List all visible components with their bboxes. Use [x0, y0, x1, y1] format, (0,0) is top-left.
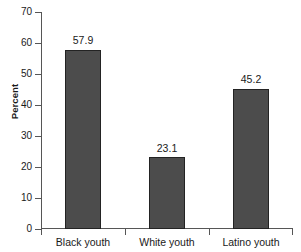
- bar-latino-youth: [233, 89, 269, 229]
- x-tick-label-black-youth: Black youth: [43, 236, 123, 248]
- y-tick-10: [35, 198, 41, 199]
- bar-chart: Percent 70 60 50 40 30 20 10 0 57.9 23.1…: [0, 0, 301, 252]
- y-tick-label-10: 10: [0, 193, 32, 203]
- x-tick-boundary-1: [125, 229, 126, 235]
- y-tick-label-0: 0: [0, 224, 32, 234]
- bar-value-black-youth: 57.9: [63, 35, 103, 46]
- y-tick-label-30: 30: [0, 131, 32, 141]
- bar-value-latino-youth: 45.2: [231, 74, 271, 85]
- bar-value-white-youth: 23.1: [147, 143, 187, 154]
- y-tick-label-60: 60: [0, 38, 32, 48]
- bar-black-youth: [65, 50, 101, 229]
- x-tick-label-white-youth: White youth: [127, 236, 207, 248]
- y-axis-line: [41, 12, 42, 229]
- x-tick-left-edge: [41, 229, 42, 235]
- x-tick-label-latino-youth: Latino youth: [211, 236, 291, 248]
- y-tick-label-50: 50: [0, 69, 32, 79]
- y-tick-label-20: 20: [0, 162, 32, 172]
- y-tick-50: [35, 74, 41, 75]
- x-tick-right-edge: [292, 229, 293, 235]
- y-tick-20: [35, 167, 41, 168]
- y-tick-30: [35, 136, 41, 137]
- y-tick-60: [35, 43, 41, 44]
- bar-white-youth: [149, 157, 185, 228]
- y-tick-label-40: 40: [0, 100, 32, 110]
- y-tick-40: [35, 105, 41, 106]
- y-tick-70: [35, 12, 41, 13]
- y-tick-label-70: 70: [0, 7, 32, 17]
- x-tick-boundary-2: [209, 229, 210, 235]
